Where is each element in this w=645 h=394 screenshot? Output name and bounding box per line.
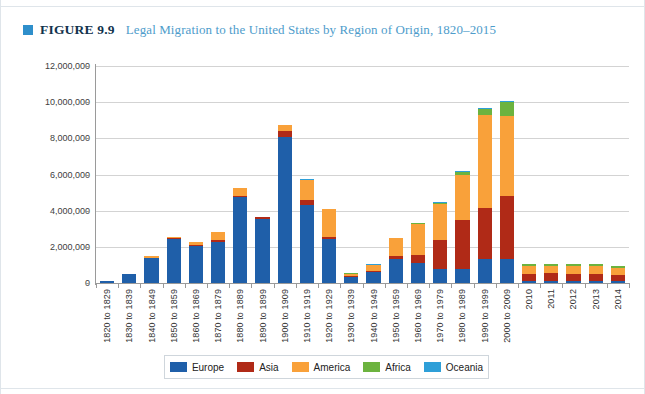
- x-axis-tick-mark: [429, 284, 430, 288]
- x-axis-tick-label: 1950 to 1959: [391, 289, 401, 343]
- bar-segment-america: [322, 209, 336, 236]
- x-axis-tick-mark: [251, 284, 252, 288]
- x-axis-tick-mark: [318, 284, 319, 288]
- legend-label: Africa: [385, 362, 411, 373]
- bar-stack[interactable]: [478, 108, 492, 283]
- y-axis-tick-label: 4,000,000: [50, 206, 90, 216]
- bar-segment-europe: [189, 246, 203, 283]
- legend-label: Europe: [192, 362, 224, 373]
- x-axis-tick-mark: [340, 284, 341, 288]
- bar-segment-america: [389, 238, 403, 256]
- bar-segment-asia: [522, 274, 536, 281]
- x-axis-tick-mark: [474, 284, 475, 288]
- bar-stack[interactable]: [389, 238, 403, 283]
- bar-segment-europe: [344, 277, 358, 283]
- x-axis-tick-mark: [96, 284, 97, 288]
- bar-stack[interactable]: [589, 264, 603, 283]
- bar-stack[interactable]: [300, 179, 314, 283]
- bar-segment-america: [589, 266, 603, 274]
- bar-stack[interactable]: [122, 274, 136, 283]
- bar-stack[interactable]: [611, 266, 625, 283]
- x-axis-tick-label: 1830 to 1839: [124, 289, 134, 343]
- bar-segment-america: [233, 188, 247, 196]
- bar-segment-america: [478, 115, 492, 208]
- x-axis-tick-label: 1870 to 1879: [213, 289, 223, 343]
- legend-item-africa[interactable]: Africa: [363, 362, 411, 373]
- y-axis-tick-mark: [85, 283, 90, 284]
- x-axis-tick-label: 1900 to 1909: [280, 289, 290, 343]
- bar-segment-europe: [500, 259, 514, 283]
- x-axis-tick-mark: [140, 284, 141, 288]
- legend-swatch-icon: [292, 362, 309, 372]
- bar-stack[interactable]: [544, 264, 558, 283]
- bar-stack[interactable]: [433, 202, 447, 283]
- x-axis-tick-mark: [607, 284, 608, 288]
- bar-stack[interactable]: [100, 281, 114, 283]
- x-axis-tick-label: 1890 to 1899: [258, 289, 268, 343]
- legend-item-europe[interactable]: Europe: [170, 362, 224, 373]
- x-axis-tick-label: 1860 to 1869: [191, 289, 201, 343]
- x-axis-tick-mark: [163, 284, 164, 288]
- bar-segment-asia: [544, 273, 558, 281]
- bar-segment-europe: [544, 281, 558, 283]
- figure-title: Legal Migration to the United States by …: [126, 22, 496, 38]
- bar-stack[interactable]: [566, 264, 580, 283]
- x-axis-tick-mark: [629, 284, 630, 288]
- x-axis-tick-label: 1820 to 1829: [102, 289, 112, 343]
- bar-stack[interactable]: [211, 232, 225, 283]
- x-axis-tick-mark: [451, 284, 452, 288]
- x-axis-tick-label: 2011: [546, 289, 556, 309]
- x-axis-tick-label: 2013: [591, 289, 601, 309]
- x-axis-tick-label: 2012: [568, 289, 578, 309]
- legend-label: Asia: [259, 362, 278, 373]
- bar-segment-europe: [300, 205, 314, 283]
- x-axis-labels: 1820 to 18291830 to 18391840 to 18491850…: [96, 289, 629, 351]
- x-axis-tick-mark: [540, 284, 541, 288]
- bar-segment-europe: [433, 269, 447, 283]
- y-axis-tick-mark: [85, 247, 90, 248]
- bar-segment-europe: [389, 259, 403, 283]
- bar-stack[interactable]: [522, 264, 536, 283]
- bar-stack[interactable]: [455, 171, 469, 283]
- bar-stack[interactable]: [167, 237, 181, 283]
- bar-stack[interactable]: [344, 273, 358, 283]
- x-axis-tick-label: 1920 to 1929: [324, 289, 334, 343]
- y-axis-tick-mark: [85, 102, 90, 103]
- bar-segment-asia: [478, 208, 492, 259]
- x-axis-tick-label: 1930 to 1939: [346, 289, 356, 343]
- bar-segment-asia: [433, 240, 447, 269]
- bar-segment-asia: [455, 220, 469, 270]
- bar-stack[interactable]: [322, 209, 336, 283]
- bar-stack[interactable]: [144, 256, 158, 283]
- bar-segment-europe: [411, 263, 425, 283]
- x-axis-tick-mark: [363, 284, 364, 288]
- bar-segment-europe: [211, 242, 225, 283]
- figure-number: FIGURE 9.9: [40, 22, 115, 38]
- bar-stack[interactable]: [500, 101, 514, 283]
- bar-segment-asia: [589, 274, 603, 281]
- bar-stack[interactable]: [411, 223, 425, 283]
- x-axis-tick-label: 2014: [613, 289, 623, 309]
- bar-segment-europe: [255, 219, 269, 283]
- y-axis-tick-mark: [85, 138, 90, 139]
- bar-segment-america: [300, 180, 314, 201]
- bar-segment-europe: [366, 272, 380, 283]
- chart-legend: EuropeAsiaAmericaAfricaOceania: [164, 355, 489, 379]
- legend-item-america[interactable]: America: [292, 362, 351, 373]
- bar-stack[interactable]: [366, 264, 380, 283]
- bar-segment-africa: [500, 102, 514, 116]
- legend-item-asia[interactable]: Asia: [237, 362, 278, 373]
- x-axis-tick-label: 2000 to 2009: [502, 289, 512, 343]
- bar-stack[interactable]: [255, 217, 269, 283]
- bar-stack[interactable]: [189, 242, 203, 284]
- legend-item-oceania[interactable]: Oceania: [424, 362, 483, 373]
- y-axis-tick-label: 6,000,000: [50, 170, 90, 180]
- bar-stack[interactable]: [278, 124, 292, 283]
- bar-segment-europe: [122, 274, 136, 283]
- x-axis-tick-label: 1880 to 1889: [235, 289, 245, 343]
- x-axis-tick-mark: [562, 284, 563, 288]
- x-axis-tick-label: 1990 to 1999: [480, 289, 490, 343]
- bar-stack[interactable]: [233, 188, 247, 283]
- bar-segment-america: [611, 268, 625, 275]
- bar-segment-america: [433, 204, 447, 240]
